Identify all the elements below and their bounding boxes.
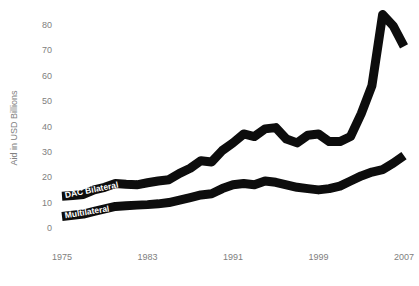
x-tick-label: 1983 [137, 252, 157, 262]
x-tick-label: 1975 [52, 252, 72, 262]
y-tick-label: 0 [47, 223, 52, 233]
line-chart: 01020304050607080 19751983199119992007 A… [0, 0, 419, 286]
x-axis-tick-labels: 19751983199119992007 [52, 252, 414, 262]
chart-container: 01020304050607080 19751983199119992007 A… [0, 0, 419, 286]
x-tick-label: 2007 [394, 252, 414, 262]
series-line-dac-bilateral [62, 15, 404, 197]
series-label-dac-bilateral: DAC Bilateral [64, 180, 119, 200]
y-axis-title: Aid in USD Billions [9, 90, 19, 166]
x-tick-label: 1999 [308, 252, 328, 262]
y-tick-label: 60 [42, 71, 52, 81]
y-tick-label: 40 [42, 122, 52, 132]
x-tick-label: 1991 [223, 252, 243, 262]
y-axis-tick-labels: 01020304050607080 [42, 20, 52, 233]
y-tick-label: 70 [42, 45, 52, 55]
y-tick-label: 50 [42, 96, 52, 106]
y-tick-label: 30 [42, 147, 52, 157]
y-tick-label: 20 [42, 172, 52, 182]
y-tick-label: 80 [42, 20, 52, 30]
y-tick-label: 10 [42, 198, 52, 208]
